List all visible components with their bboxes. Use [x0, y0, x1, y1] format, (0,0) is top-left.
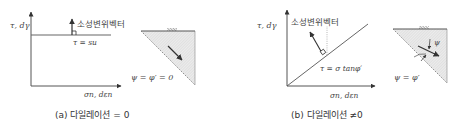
panel-a-triangle-label: ψ = φ′ = 0	[131, 73, 173, 82]
panel-b-failure-line	[287, 24, 368, 86]
panel-a-y-axis-label: τ, dγ	[10, 21, 30, 30]
panel-a-failure-label: τ = su	[73, 38, 97, 47]
panel-a: τ, dγ σn, dεn τ = su 소성변위벡터 ψ = φ′ = 0 (…	[10, 12, 195, 120]
panel-b-right-angle-marker	[320, 49, 326, 55]
panel-a-x-axis-label: σn, dεn	[84, 90, 113, 99]
panel-b-x-axis-label: σn, dεn	[330, 91, 359, 100]
ground-hatch-icon	[167, 28, 177, 31]
panel-a-caption: (a) 다일레이션 = 0	[55, 110, 130, 120]
panel-b-triangle-label: ψ = φ′	[394, 73, 420, 82]
panel-b-triangle-angle-label: ψ	[434, 38, 440, 47]
dilation-diagram: τ, dγ σn, dεn τ = su 소성변위벡터 ψ = φ′ = 0 (…	[0, 0, 454, 134]
panel-b-y-axis-label: τ, dγ	[257, 21, 277, 30]
panel-b: τ, dγ σn, dεn τ = σ tanφ′ 소성변위벡터 ψ ψ = φ…	[257, 10, 447, 120]
panel-b-plastic-vector	[310, 32, 322, 53]
panel-a-vector-label: 소성변위벡터	[77, 19, 125, 29]
ground-hatch-icon	[419, 26, 429, 29]
panel-b-caption: (b) 다일레이션 ≠0	[291, 110, 363, 120]
panel-b-vector-label: 소성변위벡터	[291, 17, 339, 27]
panel-b-failure-label: τ = σ tanφ′	[320, 64, 362, 73]
